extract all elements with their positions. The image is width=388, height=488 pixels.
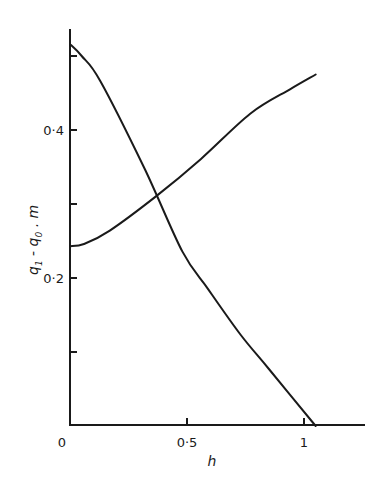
increasing-curve (70, 75, 316, 247)
chart-figure: 0·20·4 0·51 0 h q1 - q0 . m (0, 0, 388, 488)
data-series (70, 44, 316, 426)
x-ticks: 0·51 (177, 418, 308, 450)
svg-text:q1 - q0 . m: q1 - q0 . m (25, 205, 44, 275)
x-tick-label: 1 (300, 435, 308, 450)
y-label-q1: q (25, 266, 41, 275)
y-tick-label: 0·4 (43, 123, 64, 138)
origin-label: 0 (58, 435, 66, 450)
decreasing-curve (70, 44, 316, 426)
y-label-q0: - q (25, 237, 41, 260)
y-tick-label: 0·2 (43, 271, 64, 286)
y-ticks: 0·20·4 (43, 56, 77, 352)
x-tick-label: 0·5 (177, 435, 198, 450)
x-axis-label: h (208, 453, 217, 469)
y-axis-label: q1 - q0 . m (25, 205, 44, 275)
y-label-m: . m (25, 205, 41, 232)
